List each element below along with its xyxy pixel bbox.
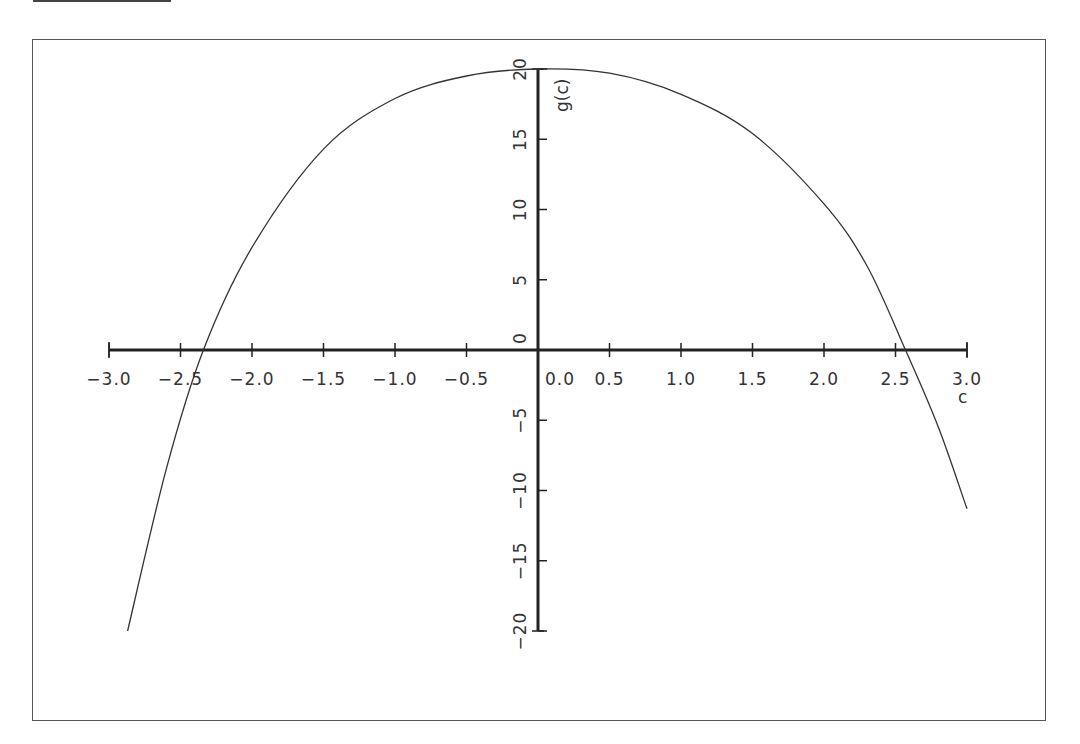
x-tick-label: 1.0 — [666, 369, 696, 389]
y-tick-label: −15 — [510, 541, 530, 580]
y-tick-label: −5 — [510, 407, 530, 434]
y-axis-title: g(c) — [552, 79, 572, 112]
x-tick-label: −1.5 — [301, 369, 346, 389]
x-tick-label: 0.0 — [545, 369, 575, 389]
y-tick-label: 10 — [510, 198, 530, 222]
y-tick-label: −10 — [510, 471, 530, 510]
x-tick-label: −1.0 — [372, 369, 417, 389]
x-tick-label: 1.5 — [737, 369, 767, 389]
y-tick-label: 5 — [510, 274, 530, 286]
x-tick-label: −2.5 — [158, 369, 203, 389]
x-tick-label: 2.0 — [809, 369, 839, 389]
x-tick-label: −3.0 — [86, 369, 131, 389]
y-axis: −20−15−10−505101520 — [510, 57, 547, 650]
y-tick-label: 15 — [510, 127, 530, 151]
x-tick-label: −2.0 — [229, 369, 274, 389]
x-axis: −3.0−2.5−2.0−1.5−1.0−0.50.51.01.52.02.53… — [86, 342, 982, 389]
x-axis-title: c — [958, 387, 967, 407]
x-tick-label: 2.5 — [880, 369, 910, 389]
x-tick-label: −0.5 — [444, 369, 489, 389]
y-tick-label: −20 — [510, 612, 530, 651]
x-tick-label: 3.0 — [952, 369, 982, 389]
x-tick-label: 0.5 — [594, 369, 624, 389]
y-tick-label: 0 — [510, 332, 530, 344]
chart-plot-area: −3.0−2.5−2.0−1.5−1.0−0.50.51.01.52.02.53… — [0, 0, 1080, 744]
